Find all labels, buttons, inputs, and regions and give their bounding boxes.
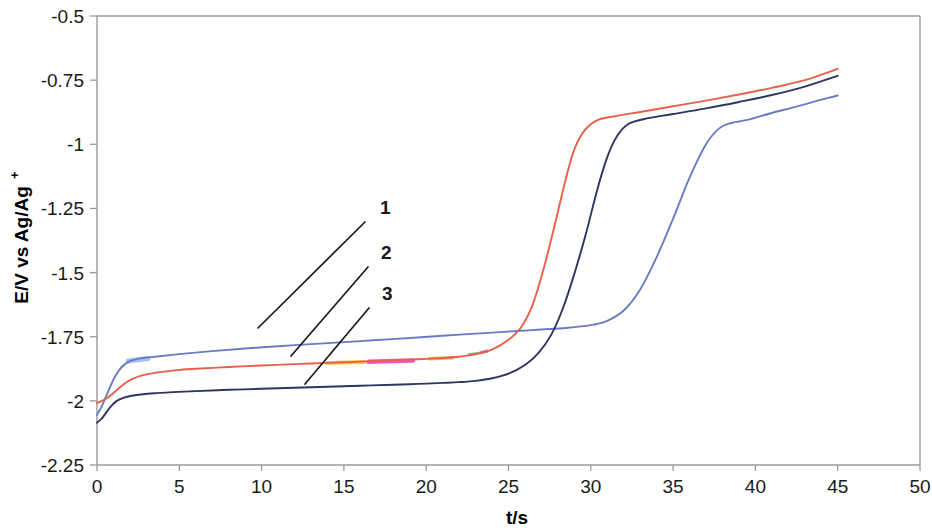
- x-tick-label: 35: [663, 476, 684, 497]
- x-tick-label: 40: [745, 476, 766, 497]
- x-tick-label: 0: [92, 476, 103, 497]
- x-tick-label: 5: [174, 476, 185, 497]
- y-tick-label: -1.5: [51, 263, 84, 284]
- series-line-2: [97, 69, 838, 403]
- y-axis-title-superscript: +: [7, 171, 22, 179]
- annotation-label-1: 1: [380, 197, 391, 218]
- y-tick-label: -1.75: [41, 327, 84, 348]
- x-axis-title: t/s: [506, 507, 528, 528]
- x-tick-label: 45: [827, 476, 848, 497]
- x-axis: 05101520253035404550: [92, 465, 931, 497]
- y-tick-label: -2.25: [41, 455, 84, 476]
- annotation-label-3: 3: [382, 283, 393, 304]
- annotation-leader-line-3: [305, 308, 369, 384]
- x-tick-label: 10: [251, 476, 272, 497]
- y-tick-label: -1.25: [41, 198, 84, 219]
- x-tick-label: 20: [416, 476, 437, 497]
- x-tick-label: 30: [580, 476, 601, 497]
- y-tick-label: -0.5: [51, 6, 84, 27]
- annotation-leader-line-1: [258, 222, 365, 328]
- y-axis-title-text: E/V vs Ag/Ag: [11, 186, 32, 304]
- y-axis-title: E/V vs Ag/Ag +: [7, 171, 32, 304]
- x-tick-label: 25: [498, 476, 519, 497]
- chart-container: -0.5-0.75-1-1.25-1.5-1.75-2-2.25 0510152…: [0, 0, 932, 532]
- series-annotations: 123: [258, 197, 393, 384]
- y-tick-label: -0.75: [41, 70, 84, 91]
- y-tick-label: -2: [67, 391, 84, 412]
- x-tick-label: 15: [333, 476, 354, 497]
- scan-artifacts: [128, 351, 487, 363]
- annotation-label-2: 2: [381, 242, 392, 263]
- series-line-3: [97, 76, 838, 423]
- plot-frame: [97, 16, 920, 465]
- y-tick-label: -1: [67, 134, 84, 155]
- data-series-group: [97, 69, 838, 423]
- line-chart-figure: -0.5-0.75-1-1.25-1.5-1.75-2-2.25 0510152…: [0, 0, 932, 532]
- series-line-1: [97, 96, 838, 415]
- x-tick-label: 50: [909, 476, 930, 497]
- y-axis: -0.5-0.75-1-1.25-1.5-1.75-2-2.25: [41, 6, 97, 476]
